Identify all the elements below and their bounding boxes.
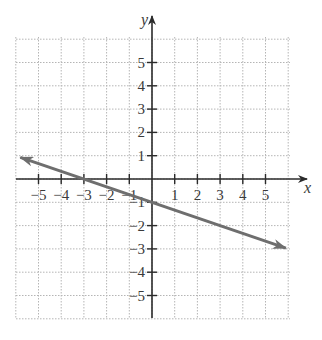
x-tick-label: 1 — [171, 187, 179, 203]
x-tick-label: −4 — [53, 187, 69, 203]
y-tick-label: −3 — [129, 241, 145, 257]
y-tick-label: 2 — [138, 124, 146, 140]
y-tick-label: 3 — [138, 101, 146, 117]
y-axis-label: y — [139, 11, 149, 29]
x-axis-label: x — [303, 179, 311, 196]
y-tick-label: 5 — [138, 55, 146, 71]
x-tick-label: 2 — [194, 187, 202, 203]
x-tick-label: −5 — [31, 187, 47, 203]
coordinate-plane: −5−4−3−2−112345−5−4−3−2−112345 xy — [0, 0, 322, 340]
grid — [16, 37, 290, 319]
x-tick-label: 5 — [262, 187, 270, 203]
y-tick-label: −5 — [129, 288, 145, 304]
y-tick-label: 4 — [138, 78, 146, 94]
y-tick-label: 1 — [138, 148, 146, 164]
y-tick-label: −2 — [129, 218, 145, 234]
axis-labels: xy — [139, 11, 311, 196]
y-tick-label: −4 — [129, 264, 145, 280]
x-tick-label: −3 — [76, 187, 92, 203]
x-tick-label: 4 — [239, 187, 247, 203]
x-tick-label: 3 — [216, 187, 224, 203]
